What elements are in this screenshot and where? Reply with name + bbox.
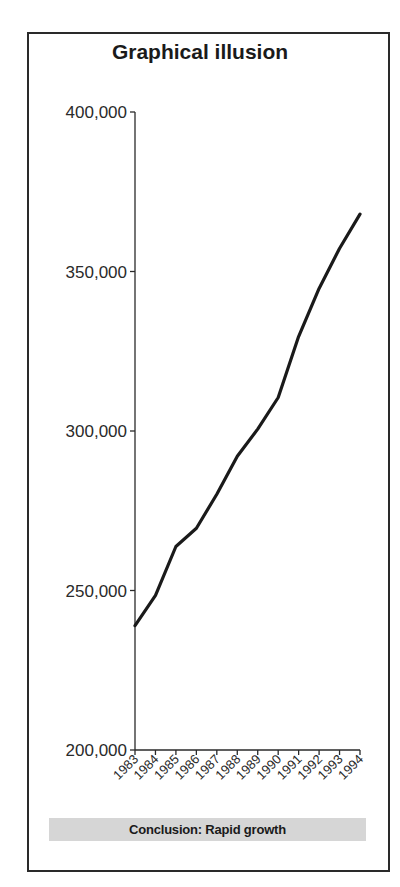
y-axis-ticks: 200,000250,000300,000350,000400,000: [66, 103, 135, 760]
axes: [135, 112, 360, 750]
y-tick-label: 400,000: [66, 103, 127, 122]
conclusion-banner: Conclusion: Rapid growth: [49, 818, 366, 841]
data-line: [135, 214, 360, 625]
x-axis-ticks: 1983198419851986198719881989199019911992…: [110, 750, 366, 783]
y-tick-label: 350,000: [66, 263, 127, 282]
line-chart: 200,000250,000300,000350,000400,000 1983…: [0, 0, 400, 887]
y-tick-label: 250,000: [66, 582, 127, 601]
y-tick-label: 200,000: [66, 741, 127, 760]
y-tick-label: 300,000: [66, 422, 127, 441]
x-tick-label: 1994: [335, 752, 366, 783]
